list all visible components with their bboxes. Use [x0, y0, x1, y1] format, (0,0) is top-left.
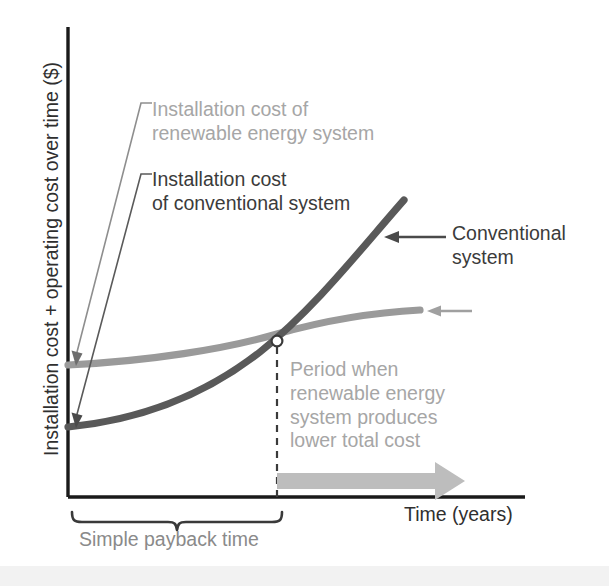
leader-renewable-install — [72, 103, 153, 366]
renewable-curve-pointer-arrow — [427, 306, 472, 317]
annotation-conventional-installation-cost: Installation cost of conventional system — [152, 168, 350, 216]
annotation-renewable-installation-cost: Installation cost of renewable energy sy… — [152, 98, 374, 146]
conventional-system-pointer-arrow — [384, 231, 446, 243]
bottom-band — [0, 566, 609, 586]
figure-root: Installation cost + operating cost over … — [0, 0, 609, 586]
y-axis-title: Installation cost + operating cost over … — [40, 24, 64, 494]
leader-conventional-install — [72, 174, 153, 428]
annotation-conventional-system: Conventional system — [452, 222, 566, 270]
x-axis-title: Time (years) — [404, 503, 513, 527]
breakeven-point-marker — [272, 336, 283, 347]
annotation-simple-payback-time: Simple payback time — [79, 528, 259, 552]
renewable-energy-curve — [68, 310, 420, 365]
annotation-period-lower-total-cost: Period when renewable energy system prod… — [290, 358, 445, 453]
chart-canvas — [0, 0, 609, 586]
period-span-arrow — [277, 462, 465, 500]
